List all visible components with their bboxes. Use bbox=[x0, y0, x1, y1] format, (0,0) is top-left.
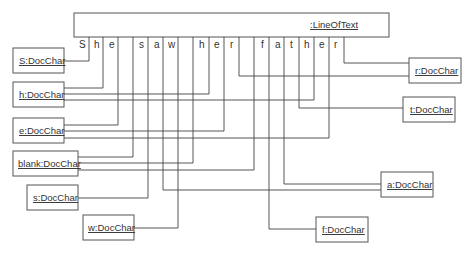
char-10: r bbox=[230, 39, 234, 50]
links bbox=[64, 37, 409, 229]
char-6: w bbox=[167, 39, 176, 50]
char-1: h bbox=[94, 39, 100, 50]
object-s-label: s:DocChar bbox=[33, 192, 78, 203]
object-s: s:DocChar bbox=[27, 185, 78, 210]
link-f bbox=[269, 37, 316, 229]
object-w-label: w:DocChar bbox=[87, 222, 135, 233]
object-t-label: t:DocChar bbox=[410, 104, 453, 115]
char-2: e bbox=[109, 39, 115, 50]
char-5: a bbox=[154, 39, 160, 50]
link-e-3 bbox=[64, 37, 329, 138]
line-of-text-object: :LineOfText bbox=[74, 13, 389, 37]
char-16: e bbox=[319, 39, 325, 50]
object-h: h:DocChar bbox=[13, 82, 64, 107]
object-blank: blank:DocChar bbox=[13, 151, 81, 176]
object-t: t:DocChar bbox=[403, 97, 455, 122]
char-13: a bbox=[275, 39, 281, 50]
object-diagram: :LineOfText S h e s a w h e r f a t h e … bbox=[0, 0, 473, 255]
link-w bbox=[134, 37, 178, 228]
object-r-label: r:DocChar bbox=[415, 65, 458, 76]
link-a-1 bbox=[163, 37, 381, 190]
char-9: e bbox=[214, 39, 220, 50]
link-r-2 bbox=[344, 37, 409, 63]
char-14: t bbox=[290, 39, 293, 50]
char-17: r bbox=[334, 39, 338, 50]
object-e: e:DocChar bbox=[13, 118, 64, 143]
object-S: S:DocChar bbox=[13, 48, 65, 73]
object-a-label: a:DocChar bbox=[387, 179, 432, 190]
char-4: s bbox=[139, 39, 144, 50]
object-f-label: f:DocChar bbox=[322, 224, 365, 235]
link-e-2 bbox=[64, 37, 224, 131]
char-8: h bbox=[199, 39, 205, 50]
char-15: h bbox=[304, 39, 310, 50]
link-blank-3 bbox=[78, 37, 254, 170]
char-0: S bbox=[79, 39, 86, 50]
link-t bbox=[299, 37, 403, 108]
char-12: f bbox=[261, 39, 264, 50]
object-S-label: S:DocChar bbox=[19, 55, 65, 66]
object-blank-label: blank:DocChar bbox=[18, 158, 81, 169]
line-of-text-label: :LineOfText bbox=[310, 19, 358, 30]
link-h-2 bbox=[64, 37, 209, 94]
object-a: a:DocChar bbox=[381, 172, 433, 197]
object-h-label: h:DocChar bbox=[19, 89, 64, 100]
object-r: r:DocChar bbox=[409, 58, 461, 83]
object-f: f:DocChar bbox=[316, 217, 368, 242]
object-w: w:DocChar bbox=[83, 215, 135, 240]
link-e-1 bbox=[64, 37, 118, 125]
link-blank-1 bbox=[78, 37, 133, 157]
object-e-label: e:DocChar bbox=[19, 125, 64, 136]
